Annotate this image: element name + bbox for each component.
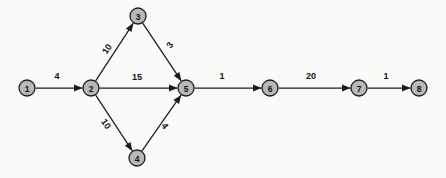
node-label-7: 7 xyxy=(357,84,362,94)
arrowhead-3-to-5 xyxy=(174,72,182,81)
edge-labels-layer: 4103151041201 xyxy=(54,40,388,131)
arrowhead-4-to-5 xyxy=(173,95,181,104)
edge-weight-5-to-6: 1 xyxy=(219,71,224,81)
nodes-layer: 12345678 xyxy=(19,8,427,166)
node-label-4: 4 xyxy=(135,154,140,164)
node-label-1: 1 xyxy=(25,84,30,94)
node-label-8: 8 xyxy=(417,84,422,94)
edge-weight-1-to-2: 4 xyxy=(54,71,59,81)
arrowhead-5-to-6 xyxy=(253,85,262,92)
edge-weight-6-to-7: 20 xyxy=(306,71,316,81)
node-label-3: 3 xyxy=(136,12,141,22)
edge-weight-2-to-3: 10 xyxy=(100,42,114,56)
graph-diagram-canvas: 4103151041201 12345678 xyxy=(0,0,446,178)
graph-node-1[interactable]: 1 xyxy=(19,80,35,96)
graph-node-2[interactable]: 2 xyxy=(83,80,99,96)
node-label-5: 5 xyxy=(184,84,189,94)
edge-weight-3-to-5: 3 xyxy=(164,40,175,50)
graph-node-7[interactable]: 7 xyxy=(351,80,367,96)
arrowhead-1-to-2 xyxy=(74,85,83,92)
arrowhead-6-to-7 xyxy=(342,85,351,92)
graph-edge-4-to-5 xyxy=(142,95,181,151)
graph-node-5[interactable]: 5 xyxy=(178,80,194,96)
graph-edge-3-to-5 xyxy=(143,23,182,81)
graph-node-8[interactable]: 8 xyxy=(411,80,427,96)
node-label-6: 6 xyxy=(268,84,273,94)
edge-weight-7-to-8: 1 xyxy=(383,71,388,81)
arrowhead-2-to-4 xyxy=(125,142,133,151)
graph-svg: 4103151041201 12345678 xyxy=(0,0,446,178)
arrowhead-2-to-3 xyxy=(126,23,133,32)
arrowhead-7-to-8 xyxy=(402,85,411,92)
edge-weight-2-to-5: 15 xyxy=(132,72,142,82)
arrowhead-2-to-5 xyxy=(169,85,178,92)
graph-node-3[interactable]: 3 xyxy=(130,8,146,24)
node-label-2: 2 xyxy=(89,84,94,94)
graph-node-6[interactable]: 6 xyxy=(262,80,278,96)
graph-node-4[interactable]: 4 xyxy=(129,150,145,166)
